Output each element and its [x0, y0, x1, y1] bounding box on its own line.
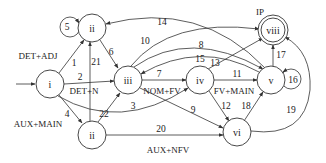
annotation-nom-fv: NOM+FV	[143, 86, 181, 96]
node-ii-bottom: ii	[78, 121, 106, 149]
svg-text:13: 13	[210, 58, 220, 68]
edge-7: 7	[142, 69, 186, 80]
svg-text:9: 9	[191, 105, 196, 115]
svg-text:10: 10	[140, 36, 150, 46]
svg-text:16: 16	[288, 75, 298, 85]
edge-5-self-loop: 5	[60, 17, 80, 37]
edge-6: 6	[100, 40, 118, 68]
svg-text:v: v	[269, 75, 274, 86]
transition-network-diagram: 1 2 3 4 5 6 7 8 9 10 11 12	[0, 0, 326, 163]
svg-text:8: 8	[199, 40, 204, 50]
node-iv: iv	[186, 66, 214, 94]
svg-text:viii: viii	[266, 25, 280, 36]
svg-text:1: 1	[72, 58, 77, 68]
svg-text:12: 12	[221, 101, 231, 111]
node-viii-final: viii IP	[256, 7, 288, 45]
svg-text:ii: ii	[89, 130, 95, 141]
edge-14: 14	[106, 17, 265, 68]
annotation-aux-main: AUX+MAIN	[14, 119, 63, 129]
svg-text:vi: vi	[233, 127, 241, 138]
annotation-aux-nfv: AUX+NFV	[147, 145, 190, 155]
edge-2: 2	[64, 72, 114, 84]
svg-text:11: 11	[232, 69, 241, 79]
svg-text:3: 3	[131, 101, 136, 111]
svg-text:15: 15	[195, 54, 205, 64]
annotation-det-adj: DET+ADJ	[18, 51, 58, 61]
ip-label: IP	[256, 7, 264, 17]
edge-18: 18	[241, 92, 263, 121]
edge-22: 22	[98, 93, 120, 122]
edge-1: 1	[59, 40, 84, 73]
node-i: i	[36, 70, 64, 98]
svg-text:19: 19	[286, 105, 296, 115]
annotation-fv-main: FV+MAIN	[214, 86, 255, 96]
svg-text:20: 20	[156, 124, 166, 134]
annotation-det-n: DET+N	[69, 86, 99, 96]
svg-text:5: 5	[65, 22, 70, 32]
edge-20: 20	[106, 124, 223, 135]
svg-text:17: 17	[276, 50, 286, 60]
svg-text:21: 21	[91, 57, 101, 67]
svg-text:14: 14	[157, 17, 167, 27]
svg-text:18: 18	[241, 101, 251, 111]
node-vi: vi	[223, 118, 251, 146]
svg-text:2: 2	[78, 72, 83, 82]
svg-text:iv: iv	[196, 75, 204, 86]
node-ii-top: ii	[78, 14, 106, 42]
edge-17: 17	[273, 45, 286, 66]
node-v: v	[257, 66, 285, 94]
svg-text:7: 7	[157, 69, 162, 79]
svg-text:ii: ii	[89, 23, 95, 34]
svg-text:6: 6	[109, 47, 114, 57]
edge-4: 4	[59, 95, 82, 123]
svg-text:4: 4	[65, 109, 70, 119]
edge-11: 11	[214, 69, 257, 80]
svg-text:i: i	[49, 79, 52, 90]
svg-text:iii: iii	[124, 75, 133, 86]
svg-text:22: 22	[99, 109, 109, 119]
node-iii: iii	[114, 66, 142, 94]
